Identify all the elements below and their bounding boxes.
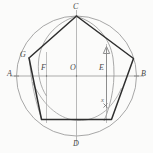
construction-canvas — [0, 0, 153, 153]
arc-lower-bowl — [33, 82, 122, 121]
point-dot-o — [76, 75, 77, 76]
point-dot-e — [106, 75, 107, 76]
point-label-e: E — [99, 64, 104, 72]
geometry-figure: A B C D O E F G x — [0, 0, 153, 153]
point-label-b: B — [141, 70, 146, 78]
point-label-x: x — [101, 97, 104, 104]
arc-c-to-f — [38, 16, 76, 96]
point-label-c: C — [73, 3, 78, 11]
point-dot-c — [76, 15, 78, 17]
point-label-f: F — [41, 64, 46, 72]
point-label-d: D — [73, 140, 79, 148]
point-label-a: A — [7, 70, 12, 78]
arc-c-to-right-vertex — [77, 17, 114, 122]
point-dot-f — [46, 75, 47, 76]
point-dot-g — [28, 57, 30, 59]
point-label-g: G — [20, 51, 26, 59]
point-label-o: O — [70, 64, 76, 72]
